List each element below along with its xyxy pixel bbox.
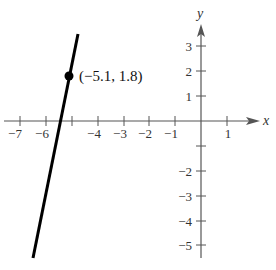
y-axis-label: y [195,6,204,21]
y-tick-label: 1 [186,89,193,104]
x-tick-label: −2 [138,126,152,141]
y-tick-label: −4 [178,214,192,229]
data-point [65,72,74,81]
point-label: (−5.1, 1.8) [79,68,142,85]
y-tick-label: 2 [186,64,193,79]
y-tick-label: −2 [178,164,192,179]
x-tick-label: −3 [113,126,127,141]
y-tick-label: −3 [178,189,192,204]
x-tick-label: 1 [225,126,232,141]
x-tick-label: −1 [164,126,178,141]
x-tick-label: −7 [8,126,22,141]
x-tick-label: −6 [35,126,49,141]
x-tick-label: −4 [87,126,101,141]
y-tick-label: −5 [178,238,192,253]
line-series [33,34,78,258]
x-axis-label: x [262,113,270,128]
y-tick-label: 3 [186,39,193,54]
chart-plot: −7 −6 −4 −3 −2 −1 1 3 2 1 −2 −3 −4 −5 x … [0,0,276,270]
